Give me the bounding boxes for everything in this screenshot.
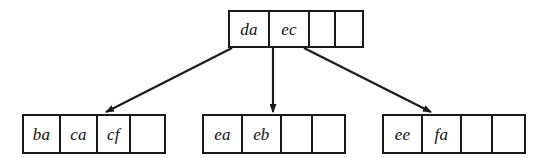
leaf-left-cell-2[interactable]: cf [98, 116, 131, 152]
btree-diagram: da ec ba ca cf ea eb ee fa [0, 0, 544, 158]
edge-root-to-right [304, 48, 431, 112]
root-cell-3[interactable] [336, 12, 362, 46]
leaf-middle-cell-3[interactable] [313, 116, 344, 152]
root-cell-2[interactable] [310, 12, 336, 46]
leaf-left-cell-3[interactable] [131, 116, 164, 152]
btree-root-node[interactable]: da ec [228, 10, 364, 48]
edge-root-to-left [106, 48, 232, 112]
leaf-left-cell-1[interactable]: ca [61, 116, 98, 152]
leaf-right-cell-1[interactable]: fa [423, 116, 462, 152]
leaf-middle-cell-1[interactable]: eb [243, 116, 282, 152]
leaf-right-cell-3[interactable] [493, 116, 524, 152]
btree-leaf-left-node[interactable]: ba ca cf [22, 114, 166, 154]
leaf-right-cell-0[interactable]: ee [384, 116, 423, 152]
btree-leaf-right-node[interactable]: ee fa [382, 114, 526, 154]
root-cell-1[interactable]: ec [270, 12, 310, 46]
leaf-middle-cell-2[interactable] [282, 116, 313, 152]
leaf-right-cell-2[interactable] [462, 116, 493, 152]
root-cell-0[interactable]: da [230, 12, 270, 46]
leaf-middle-cell-0[interactable]: ea [204, 116, 243, 152]
leaf-left-cell-0[interactable]: ba [24, 116, 61, 152]
btree-leaf-middle-node[interactable]: ea eb [202, 114, 346, 154]
